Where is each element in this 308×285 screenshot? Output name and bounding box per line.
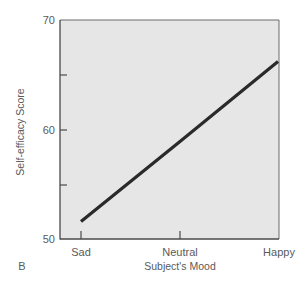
x-tick-label-neutral: Neutral [162,246,197,258]
chart: 70 60 50 Sad Neutral Happy Subject's Moo… [0,0,308,285]
x-axis-title: Subject's Mood [144,260,216,272]
panel-label: B [18,260,25,272]
y-tick-label-50: 50 [43,233,55,245]
y-tick-label-60: 60 [43,124,55,136]
x-tick-label-happy: Happy [263,246,295,258]
plot-area [60,20,279,239]
y-tick-label-70: 70 [43,14,55,26]
y-axis-title: Self-efficacy Score [14,88,26,176]
x-tick-label-sad: Sad [71,246,91,258]
